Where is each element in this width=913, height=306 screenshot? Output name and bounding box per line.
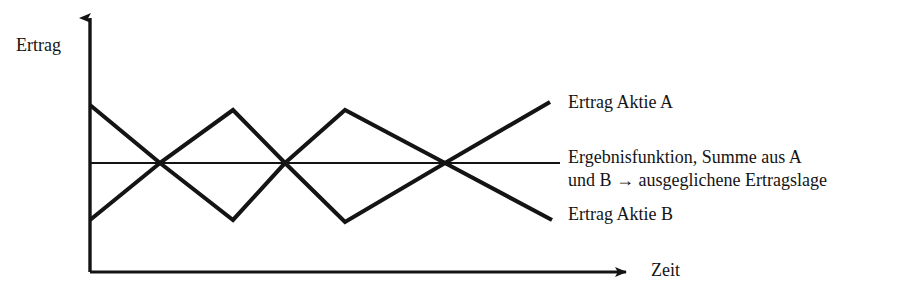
series-line-a — [90, 102, 550, 163]
legend-label-series-b: Ertrag Aktie B — [568, 203, 673, 226]
x-axis-label: Zeit — [651, 259, 680, 282]
legend-label-sum-function: Ergebnisfunktion, Summe aus Aund B → aus… — [568, 146, 827, 192]
legend-label-sum-function-line-2: und B → ausgeglichene Ertragslage — [568, 169, 827, 192]
y-axis-label: Ertrag — [16, 34, 61, 57]
series-line-b — [90, 163, 552, 222]
legend-label-series-a: Ertrag Aktie A — [568, 91, 673, 114]
legend-label-sum-function-line-1: Ergebnisfunktion, Summe aus A — [568, 147, 802, 167]
chart-figure: Ertrag Zeit Ertrag Aktie A Ergebnisfunkt… — [0, 0, 913, 306]
